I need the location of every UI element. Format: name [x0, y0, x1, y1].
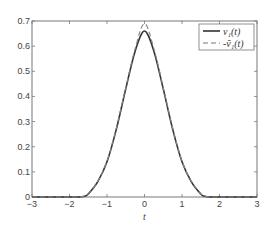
y-tick-label: 0.1 [17, 167, 30, 177]
line-chart: −3−2−10123 00.10.20.30.40.50.60.7 t v₁(t… [0, 0, 272, 232]
y-tick-label: 0 [25, 192, 30, 202]
y-tick-label: 0.3 [17, 117, 30, 127]
x-tick-label: −1 [102, 199, 112, 209]
x-tick-label: 2 [217, 199, 222, 209]
x-axis-label: t [143, 211, 146, 222]
legend: v₁(t) -ṽ₁(t) [199, 24, 254, 50]
legend-entry-v1: v₁(t) [223, 26, 241, 38]
x-tick-label: 3 [254, 199, 259, 209]
y-tick-label: 0.4 [17, 91, 30, 101]
y-tick-label: 0.5 [17, 66, 30, 76]
x-tick-label: −2 [64, 199, 74, 209]
legend-entry-v1-tilde: -ṽ₁(t) [223, 38, 244, 50]
x-tick-label: 0 [142, 199, 147, 209]
y-tick-label: 0.6 [17, 41, 30, 51]
y-tick-label: 0.7 [17, 16, 30, 26]
y-tick-label: 0.2 [17, 142, 30, 152]
x-tick-label: 1 [179, 199, 184, 209]
